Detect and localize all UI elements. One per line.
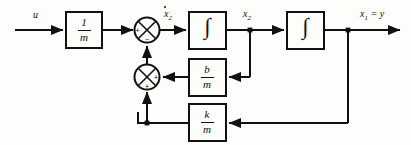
- label-input-u: u: [33, 10, 38, 20]
- summer2-right-sign: +: [152, 74, 160, 81]
- derivative-dot: [164, 6, 166, 8]
- junction-dot-output: [346, 28, 351, 33]
- gain-b-over-m-denominator: m: [195, 79, 219, 90]
- gain-k-over-m-denominator: m: [195, 124, 219, 135]
- gain-b-over-m-label: b m: [195, 64, 219, 90]
- gain-one-over-m-denominator: m: [72, 32, 96, 43]
- label-x2-dot-subscript: 2: [168, 14, 172, 22]
- gain-one-over-m-numerator: 1: [72, 17, 96, 28]
- integrator2-symbol: ∫: [287, 15, 324, 38]
- junction-dot-k-feedback: [145, 121, 150, 126]
- label-output-equals: = y: [368, 8, 384, 19]
- block-diagram-canvas: u 1 m + − x2 ∫ x2 ∫ x1 = y + + b m k m: [0, 0, 411, 145]
- integrator1-symbol: ∫: [189, 15, 226, 38]
- summer1-left-sign: +: [134, 27, 142, 34]
- label-x2-dot: x2: [164, 9, 172, 22]
- summer1-bottom-sign: −: [143, 36, 151, 43]
- junction-dot-x2: [248, 28, 253, 33]
- label-output: x1 = y: [360, 9, 384, 22]
- x2-dot-wrapper: x: [164, 9, 168, 19]
- label-x2: x2: [243, 9, 251, 22]
- gain-k-over-m-numerator: k: [195, 109, 219, 120]
- gain-k-over-m-label: k m: [195, 109, 219, 135]
- gain-one-over-m-label: 1 m: [72, 17, 96, 43]
- summer2-bottom-sign: +: [143, 83, 151, 90]
- label-x2-subscript: 2: [247, 14, 251, 22]
- label-x2-dot-base: x: [164, 8, 168, 19]
- gain-b-over-m-numerator: b: [195, 64, 219, 75]
